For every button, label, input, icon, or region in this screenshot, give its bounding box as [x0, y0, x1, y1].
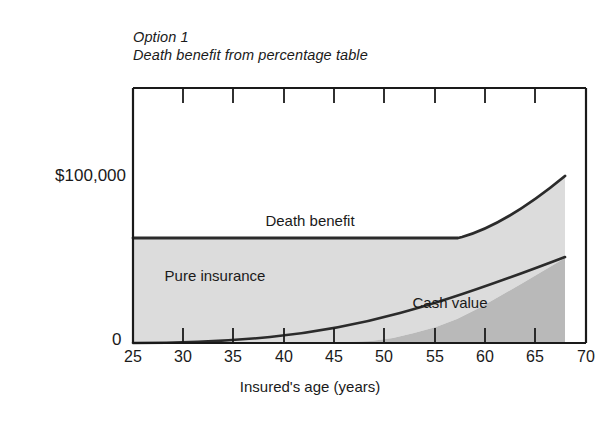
- x-tick-label-35: 35: [224, 348, 242, 366]
- x-axis-title: Insured's age (years): [240, 378, 380, 395]
- x-tick-label-40: 40: [275, 348, 293, 366]
- annotation-pure-insurance: Pure insurance: [165, 267, 266, 284]
- y-tick-label-0: 0: [112, 330, 121, 350]
- x-tick-label-45: 45: [325, 348, 343, 366]
- top-tick-marks: [183, 88, 535, 103]
- x-tick-label-50: 50: [375, 348, 393, 366]
- annotation-cash-value: Cash value: [412, 294, 487, 311]
- x-tick-label-65: 65: [526, 348, 544, 366]
- y-tick-label-100000: $100,000: [55, 166, 126, 186]
- chart-figure: Option 1 Death benefit from percentage t…: [0, 0, 613, 423]
- x-tick-label-70: 70: [577, 348, 595, 366]
- x-tick-label-25: 25: [124, 348, 142, 366]
- annotation-death-benefit: Death benefit: [265, 212, 354, 229]
- x-tick-label-30: 30: [174, 348, 192, 366]
- x-tick-label-60: 60: [476, 348, 494, 366]
- x-tick-label-55: 55: [426, 348, 444, 366]
